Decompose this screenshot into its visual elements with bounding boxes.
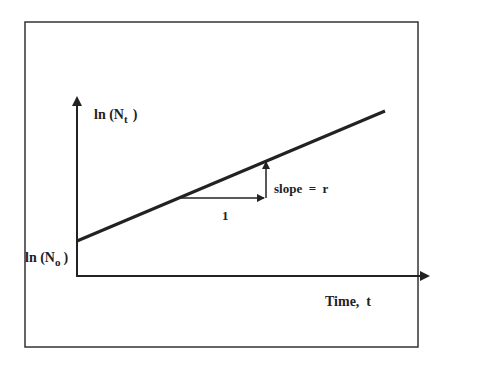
slope-label: slope = r <box>274 181 329 196</box>
y-intercept-label: ln (No) <box>25 250 68 268</box>
y-axis-label: ln (Nt) <box>94 107 138 125</box>
growth-line <box>77 111 385 241</box>
x-axis-label: Time, t <box>325 294 371 309</box>
growth-diagram: ln (Nt) ln (No) Time, t 1 slope = r <box>0 0 481 367</box>
run-label: 1 <box>222 208 229 223</box>
